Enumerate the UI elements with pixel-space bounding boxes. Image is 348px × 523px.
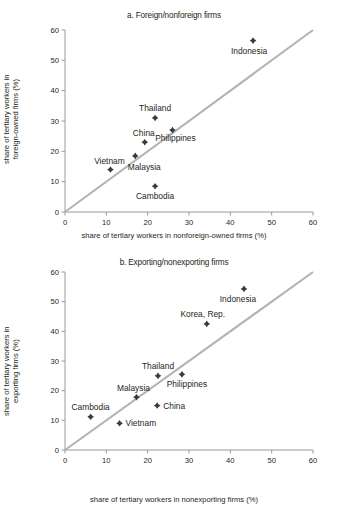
data-point	[155, 373, 162, 380]
y-tick-label: 30	[51, 357, 59, 366]
y-tick-label: 20	[51, 147, 59, 156]
x-tick-label: 40	[226, 218, 234, 227]
figure-two-scatter-panels: a. Foreign/nonforeign firms share of ter…	[0, 0, 348, 523]
y-tick-label: 40	[51, 327, 59, 336]
y-tick-label: 50	[51, 56, 59, 65]
x-tick-label: 20	[143, 456, 151, 465]
y-tick-label: 60	[51, 26, 59, 35]
panel-b-exporting-nonexporting: b. Exporting/nonexporting firms share of…	[0, 252, 348, 523]
data-point-label: Korea, Rep.	[180, 309, 225, 319]
x-tick-label: 40	[226, 456, 234, 465]
y-tick-label: 0	[55, 446, 59, 455]
y-tick-label: 10	[51, 177, 59, 186]
x-tick-label: 30	[185, 456, 193, 465]
y-tick-label: 10	[51, 416, 59, 425]
data-point	[179, 371, 186, 378]
panel-a-foreign-nonforeign: a. Foreign/nonforeign firms share of ter…	[0, 0, 348, 252]
panel-b-x-axis-title: share of tertiary workers in nonexportin…	[0, 495, 348, 504]
panel-a-x-axis-title: share of tertiary workers in nonforeign-…	[0, 231, 348, 240]
data-point-label: China	[133, 128, 155, 138]
x-tick-label: 60	[309, 456, 317, 465]
y-tick-label: 40	[51, 86, 59, 95]
data-point	[107, 166, 114, 173]
x-tick-label: 50	[267, 218, 275, 227]
data-point	[152, 183, 159, 190]
data-point	[241, 286, 248, 293]
x-tick-label: 10	[102, 218, 110, 227]
data-point-label: Vietnam	[126, 418, 157, 428]
data-point-label: Philippines	[167, 379, 208, 389]
data-point-label: Indonesia	[231, 46, 268, 56]
y-tick-label: 20	[51, 386, 59, 395]
data-point-label: Vietnam	[94, 156, 125, 166]
data-point-label: Malaysia	[117, 383, 150, 393]
y-tick-label: 50	[51, 297, 59, 306]
data-point-label: Malaysia	[128, 162, 161, 172]
y-tick-label: 0	[55, 208, 59, 217]
panel-a-plot: 01020304050600102030405060IndonesiaThail…	[0, 0, 348, 252]
x-tick-label: 20	[143, 218, 151, 227]
x-tick-label: 50	[267, 456, 275, 465]
y-tick-label: 30	[51, 117, 59, 126]
data-point	[141, 139, 148, 146]
x-tick-label: 30	[185, 218, 193, 227]
y-tick-label: 60	[51, 268, 59, 277]
data-point-label: Thailand	[142, 361, 174, 371]
data-point-label: Indonesia	[220, 294, 257, 304]
data-point-label: China	[163, 401, 185, 411]
data-point	[152, 115, 159, 122]
data-point	[87, 413, 94, 420]
data-point	[250, 37, 257, 44]
data-point-label: Cambodia	[136, 191, 175, 201]
x-tick-label: 0	[63, 456, 67, 465]
data-point-label: Philippines	[155, 133, 196, 143]
x-tick-label: 0	[63, 218, 67, 227]
x-tick-label: 60	[309, 218, 317, 227]
data-point	[116, 420, 123, 427]
data-point-label: Thailand	[139, 103, 171, 113]
panel-b-plot: 01020304050600102030405060IndonesiaKorea…	[0, 252, 348, 523]
data-point-label: Cambodia	[72, 402, 111, 412]
data-point	[203, 321, 210, 328]
x-tick-label: 10	[102, 456, 110, 465]
data-point	[154, 402, 161, 409]
